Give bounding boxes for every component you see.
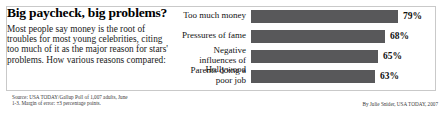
chart-row: Negative influences of Hollywood 65% (176, 50, 434, 63)
bar (251, 70, 375, 83)
bar (251, 50, 378, 63)
bar-value-label: 68% (390, 31, 409, 42)
text-column: Big paycheck, big problems? Most people … (7, 5, 175, 65)
source-line-2: 1-3. Margin of error: ±3 percentage poin… (12, 100, 212, 106)
bar-value-label: 79% (403, 11, 422, 22)
bar-track: 68% (251, 30, 434, 43)
chart-row: Pressures of fame 68% (176, 30, 434, 43)
bar-chart: Too much money 79% Pressures of fame 68%… (176, 6, 434, 86)
chart-row: Parents doing a poor job 63% (176, 70, 434, 83)
byline: By Julie Snider, USA TODAY, 2007 (362, 101, 438, 107)
bar-value-label: 65% (383, 51, 402, 62)
page-title: Big paycheck, big problems? (7, 5, 175, 20)
bar (251, 30, 385, 43)
bar-track: 63% (251, 70, 434, 83)
chart-row: Too much money 79% (176, 10, 434, 23)
bar-category-label: Pressures of fame (176, 31, 246, 41)
chart-subtitle: Most people say money is the root of tro… (7, 24, 175, 65)
bar-value-label: 63% (380, 71, 399, 82)
bar-track: 65% (251, 50, 434, 63)
bar-category-label: Too much money (176, 11, 246, 21)
bar-category-label: Parents doing a poor job (176, 66, 246, 85)
source-note: Source: USA TODAY/Gallup Poll of 1,007 a… (12, 94, 212, 106)
usa-today-snapshot: Big paycheck, big problems? Most people … (0, 0, 448, 118)
bar (251, 10, 398, 23)
bar-track: 79% (251, 10, 434, 23)
